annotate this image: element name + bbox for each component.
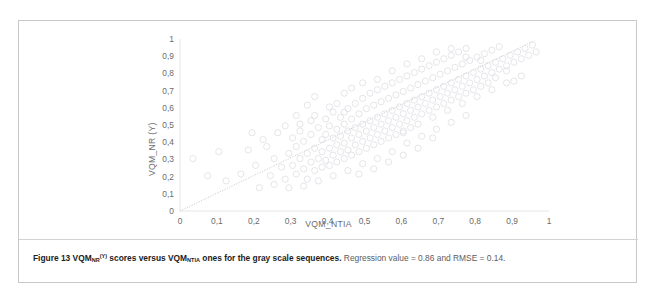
data-point bbox=[297, 155, 303, 161]
data-point bbox=[393, 92, 399, 98]
data-point bbox=[463, 73, 469, 79]
data-point bbox=[301, 138, 307, 144]
data-point bbox=[448, 80, 454, 86]
data-point bbox=[393, 114, 399, 120]
data-point bbox=[385, 159, 391, 165]
data-point bbox=[334, 126, 340, 132]
data-point bbox=[312, 112, 318, 118]
data-point bbox=[352, 100, 358, 106]
data-point bbox=[522, 45, 528, 51]
data-points bbox=[190, 42, 539, 191]
data-point bbox=[363, 145, 369, 151]
data-point bbox=[408, 85, 414, 91]
data-point bbox=[433, 49, 439, 55]
data-point bbox=[278, 164, 284, 170]
data-point bbox=[430, 75, 436, 81]
data-point bbox=[419, 66, 425, 72]
data-point bbox=[374, 131, 380, 137]
data-point bbox=[312, 145, 318, 151]
data-point bbox=[345, 128, 351, 134]
data-point bbox=[337, 149, 343, 155]
data-point bbox=[293, 171, 299, 177]
data-point bbox=[396, 76, 402, 82]
x-axis-title: VQM_NTIA bbox=[19, 219, 638, 229]
data-point bbox=[456, 49, 462, 55]
data-point bbox=[374, 155, 380, 161]
y-tick-label: 0,7 bbox=[148, 86, 174, 96]
data-point bbox=[496, 66, 502, 72]
data-point bbox=[448, 119, 454, 125]
data-point bbox=[511, 59, 517, 65]
data-point bbox=[441, 83, 447, 89]
figure-caption: Figure 13 VQMNR(Y) scores versus VQMNTIA… bbox=[33, 253, 625, 264]
plot-svg bbox=[19, 21, 638, 239]
data-point bbox=[348, 135, 354, 141]
data-point bbox=[430, 97, 436, 103]
data-point bbox=[319, 164, 325, 170]
data-point bbox=[404, 61, 410, 67]
data-point bbox=[515, 49, 521, 55]
data-point bbox=[441, 56, 447, 62]
data-point bbox=[363, 106, 369, 112]
data-point bbox=[264, 143, 270, 149]
data-point bbox=[404, 140, 410, 146]
data-point bbox=[467, 80, 473, 86]
data-point bbox=[426, 107, 432, 113]
data-point bbox=[489, 47, 495, 53]
data-point bbox=[308, 131, 314, 137]
caption-figure-number: Figure 13 VQM bbox=[33, 253, 92, 263]
data-point bbox=[326, 162, 332, 168]
data-point bbox=[400, 111, 406, 117]
data-point bbox=[382, 83, 388, 89]
data-point bbox=[503, 80, 509, 86]
data-point bbox=[474, 76, 480, 82]
data-point bbox=[256, 185, 262, 191]
caption-tail-bold: ones for the gray scale sequences. bbox=[200, 253, 342, 263]
data-point bbox=[526, 52, 532, 58]
data-point bbox=[297, 121, 303, 127]
data-point bbox=[433, 126, 439, 132]
data-point bbox=[352, 142, 358, 148]
data-point bbox=[360, 161, 366, 167]
data-point bbox=[371, 166, 377, 172]
data-point bbox=[238, 171, 244, 177]
data-point bbox=[433, 104, 439, 110]
data-point bbox=[448, 52, 454, 58]
data-point bbox=[419, 56, 425, 62]
y-tick-label: 0,1 bbox=[148, 189, 174, 199]
data-point bbox=[348, 85, 354, 91]
data-point bbox=[463, 54, 469, 60]
data-point bbox=[360, 95, 366, 101]
data-point bbox=[293, 143, 299, 149]
data-point bbox=[389, 68, 395, 74]
data-point bbox=[304, 176, 310, 182]
data-point bbox=[360, 80, 366, 86]
data-point bbox=[496, 44, 502, 50]
data-point bbox=[463, 45, 469, 51]
data-point bbox=[297, 128, 303, 134]
data-point bbox=[415, 121, 421, 127]
data-point bbox=[422, 100, 428, 106]
data-point bbox=[334, 159, 340, 165]
data-point bbox=[382, 111, 388, 117]
data-point bbox=[444, 107, 450, 113]
data-point bbox=[408, 124, 414, 130]
data-point bbox=[459, 83, 465, 89]
data-point bbox=[282, 123, 288, 129]
data-point bbox=[356, 111, 362, 117]
data-point bbox=[389, 107, 395, 113]
data-point bbox=[326, 104, 332, 110]
data-point bbox=[216, 149, 222, 155]
data-point bbox=[374, 87, 380, 93]
data-point bbox=[341, 90, 347, 96]
data-point bbox=[456, 94, 462, 100]
caption-mid-text: scores versus VQM bbox=[107, 253, 187, 263]
data-point bbox=[323, 116, 329, 122]
data-point bbox=[452, 87, 458, 93]
data-point bbox=[341, 140, 347, 146]
data-point bbox=[411, 114, 417, 120]
data-point bbox=[400, 152, 406, 158]
data-point bbox=[289, 135, 295, 141]
data-point bbox=[385, 118, 391, 124]
data-point bbox=[448, 45, 454, 51]
